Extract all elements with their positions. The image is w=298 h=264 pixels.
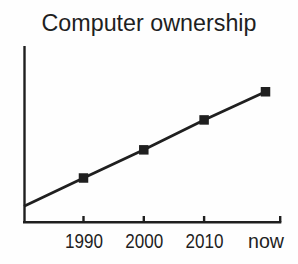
chart-title: Computer ownership (42, 10, 257, 36)
x-axis-label: 2000 (125, 229, 163, 252)
data-point-marker (261, 87, 271, 97)
computer-ownership-figure: Computer ownership 199020002010now (0, 0, 298, 264)
x-axis-label: 1990 (65, 229, 103, 252)
data-point-marker (139, 145, 149, 155)
data-point-marker (199, 115, 209, 125)
data-point-marker (79, 173, 89, 183)
x-axis-label: 2010 (186, 229, 224, 252)
x-axis-labels: 199020002010now (65, 229, 285, 252)
x-axis-label: now (248, 229, 285, 252)
line-chart: Computer ownership 199020002010now (0, 0, 298, 264)
